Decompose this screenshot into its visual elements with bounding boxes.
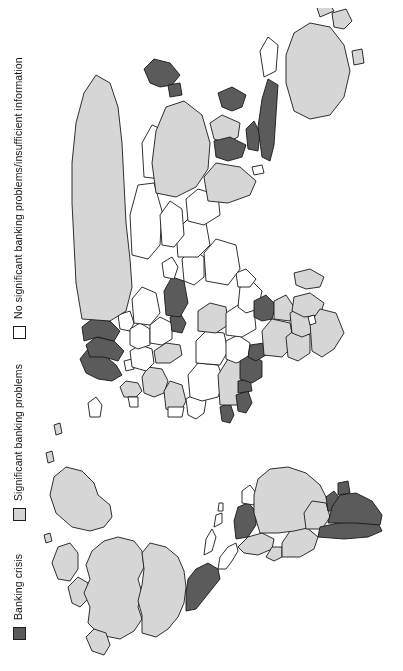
region-island-dot-3: [54, 423, 62, 435]
region-sri-lanka: [252, 165, 264, 175]
region-canada-arctic-islands: [52, 543, 78, 581]
legend-label-significant-banking-problems: Significant banking problems: [13, 364, 24, 501]
legend-swatch-significant-banking-problems: [13, 508, 26, 521]
region-caucasus: [162, 257, 178, 279]
region-island-dot-2: [46, 451, 54, 463]
region-canada: [84, 537, 144, 639]
region-poland: [130, 323, 150, 349]
world-map-rotation-wrapper: [38, 8, 403, 663]
region-united-states: [138, 543, 186, 637]
region-island-dot-1: [44, 533, 52, 543]
region-ivory-coast: [236, 391, 252, 413]
legend-swatch-banking-crisis: [13, 627, 26, 640]
legend-swatch-no-significant-banking-problems: [13, 326, 26, 339]
region-turkey: [164, 277, 188, 317]
region-kenya: [254, 295, 276, 321]
legend-label-no-significant-banking-problems: No significant banking problems/insuffic…: [13, 57, 24, 319]
region-central-america: [218, 543, 238, 569]
region-sweden: [86, 337, 124, 361]
region-portugal: [168, 407, 184, 417]
world-map-container: [38, 8, 403, 663]
region-new-guinea: [260, 37, 278, 77]
region-kazakhstan: [130, 183, 162, 259]
region-egypt: [198, 303, 228, 333]
region-puerto-rico: [218, 503, 223, 511]
banking-crisis-world-map-figure: Banking crisis Significant banking probl…: [0, 0, 403, 671]
region-finland: [82, 319, 120, 341]
region-china: [152, 101, 210, 197]
region-australia: [286, 23, 350, 119]
region-united-kingdom: [120, 381, 142, 397]
region-japan: [144, 59, 180, 87]
region-island-dot-4: [308, 315, 316, 325]
region-new-zealand-north: [316, 8, 334, 17]
region-italy: [154, 343, 182, 363]
region-hispaniola: [214, 513, 222, 527]
region-mexico: [186, 563, 220, 611]
region-greenland: [50, 467, 112, 531]
region-ireland: [128, 397, 138, 407]
region-germany: [130, 345, 154, 371]
region-south-korea: [168, 83, 182, 97]
region-alaska: [86, 629, 110, 655]
region-iceland: [88, 397, 102, 417]
region-india: [204, 163, 256, 203]
region-tasmania: [352, 49, 364, 65]
legend-label-banking-crisis: Banking crisis: [13, 554, 24, 620]
region-ukraine: [132, 287, 160, 325]
region-madagascar: [294, 269, 324, 289]
region-venezuela: [234, 503, 256, 539]
world-map-svg: [38, 8, 403, 663]
region-south-africa: [310, 309, 344, 357]
region-cuba: [204, 529, 216, 555]
region-new-zealand-south: [332, 9, 352, 29]
region-senegal: [220, 403, 234, 423]
region-indonesia: [258, 79, 278, 161]
region-philippines: [218, 87, 246, 111]
region-russia: [72, 75, 132, 321]
region-libya: [196, 331, 228, 365]
region-uruguay: [338, 481, 350, 495]
region-thailand: [214, 137, 246, 161]
map-legend: Banking crisis Significant banking probl…: [0, 0, 42, 671]
